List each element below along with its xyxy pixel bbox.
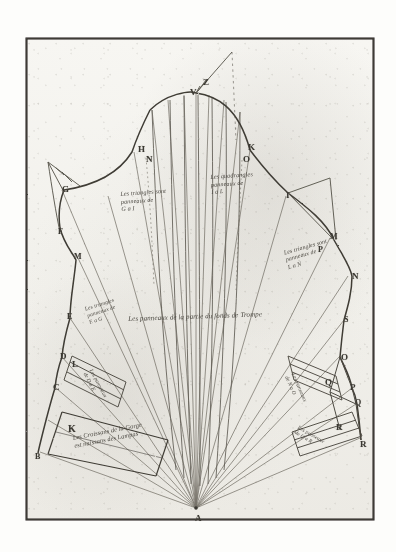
point-label-Q-outer: Q <box>355 399 361 407</box>
point-label-M-right: M <box>330 233 338 241</box>
figure-linework <box>0 0 396 552</box>
point-label-E: E <box>67 313 72 321</box>
point-label-O-right: O <box>341 353 348 362</box>
point-label-I: I <box>286 191 290 200</box>
note-triangles-g-i: Les triangles sont panneaux de G a I <box>120 187 167 213</box>
point-label-G: G <box>62 185 69 194</box>
point-label-R-outer: R <box>360 440 367 449</box>
point-label-M-left: M <box>74 253 82 261</box>
point-label-A-apex: A <box>195 514 202 523</box>
point-label-P-right: P <box>350 383 356 392</box>
point-label-R-inner: R <box>336 423 343 432</box>
top-auxiliary-lines <box>196 52 236 140</box>
apex-node <box>194 506 198 510</box>
point-label-H: H <box>138 145 145 154</box>
point-label-N-upper-left: N <box>146 155 153 164</box>
point-label-F: F <box>58 228 63 236</box>
point-label-C: C <box>53 383 60 392</box>
point-label-K: K <box>248 143 255 152</box>
point-label-Q-inner: Q <box>325 378 332 387</box>
point-label-L-left: L <box>72 360 78 369</box>
point-label-N-right: N <box>352 272 359 281</box>
point-label-Z: Z <box>203 78 209 87</box>
note-quadrangles-i-l: Les quadrangles panneaux de I a L <box>210 170 254 196</box>
point-label-D: D <box>60 352 67 361</box>
croissant-box <box>48 412 168 476</box>
point-label-S: S <box>344 316 348 324</box>
engraving-plate: Z V H N K O G I F M M P N E S D L O C Q … <box>0 0 396 552</box>
point-label-B: B <box>35 453 40 461</box>
point-label-O-upper: O <box>243 155 250 164</box>
point-label-V: V <box>190 88 197 97</box>
